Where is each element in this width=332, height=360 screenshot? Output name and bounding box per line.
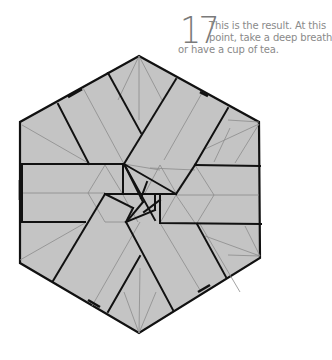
step-instruction-line-3: or have a cup of tea. bbox=[178, 44, 279, 56]
step-instruction-line-2: point, take a deep breath bbox=[209, 32, 332, 44]
step-instruction-line-1: This is the result. At this bbox=[209, 20, 326, 32]
